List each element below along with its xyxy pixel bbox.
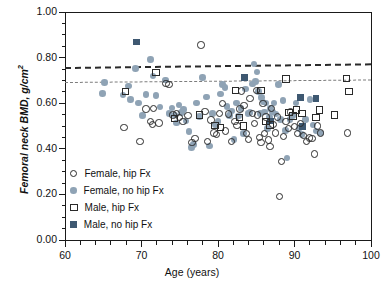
x-axis-title: Age (years) [0,266,384,278]
y-major-tick [59,57,65,58]
point-open-square [152,69,159,76]
y-minor-tick [62,228,66,229]
point-filled-circle [101,79,108,86]
legend-item-male_fx[interactable]: Male, hip Fx [70,202,139,213]
plot-top-edge [65,12,372,13]
chart-figure: Femoral neck BMD, g/cm2 0.000.200.400.60… [0,0,384,285]
point-filled-square [133,39,140,46]
point-open-square [298,110,305,117]
point-open-circle [213,131,220,138]
point-filled-circle [147,56,154,63]
point-open-square [171,115,178,122]
x-major-tick [65,241,66,247]
point-open-circle [150,105,157,112]
point-open-square [312,114,319,121]
point-open-circle [240,102,247,109]
point-open-circle [276,193,283,200]
point-filled-circle [199,74,206,81]
point-open-square [331,111,338,118]
x-minor-tick [279,241,280,245]
x-minor-tick [355,241,356,245]
x-minor-tick [263,241,264,245]
y-tick-label: 0.20 [21,187,57,199]
point-filled-circle [135,100,142,107]
point-open-circle [259,100,266,107]
point-open-circle [278,158,285,165]
point-open-circle [204,138,211,145]
x-minor-tick [340,241,341,245]
point-filled-circle [280,97,287,104]
legend-item-female_fx[interactable]: Female, hip Fx [70,168,151,179]
point-filled-circle [252,78,259,85]
y-minor-tick [62,137,66,138]
legend-label: Female, no hip Fx [84,185,164,196]
y-minor-tick [62,205,66,206]
y-minor-tick [62,34,66,35]
legend-label: Male, no hip Fx [84,219,152,230]
point-open-square [122,88,129,95]
point-open-circle [308,135,315,142]
legend-label: Male, hip Fx [85,202,139,213]
point-filled-circle [203,94,210,101]
point-open-circle [216,110,223,117]
point-open-circle [274,113,281,120]
point-open-circle [317,129,324,136]
point-filled-circle [275,81,282,88]
legend-item-male_no_fx[interactable]: Male, no hip Fx [70,219,152,230]
x-minor-tick [126,241,127,245]
x-tick-label: 90 [275,249,315,261]
y-axis-line [65,12,66,241]
point-open-circle [272,129,279,136]
y-axis-title-superscript: 2 [16,65,25,69]
y-minor-tick [62,217,66,218]
x-minor-tick [95,241,96,245]
point-open-square [266,121,273,128]
point-open-circle [257,139,264,146]
point-filled-circle [153,92,160,99]
point-open-square [282,75,289,82]
point-open-square [232,87,239,94]
y-axis-title: Femoral neck BMD, g/cm2 [16,65,30,194]
point-open-circle [165,81,172,88]
point-open-circle [179,118,186,125]
point-open-circle [225,110,232,117]
x-tick-label: 70 [122,249,162,261]
point-filled-circle [217,91,224,98]
y-major-tick [59,148,65,149]
x-major-tick [371,241,372,247]
y-minor-tick [62,91,66,92]
y-major-tick [59,194,65,195]
y-minor-tick [62,80,66,81]
y-tick-label: 0.80 [21,51,57,63]
point-open-circle [344,129,351,136]
point-filled-circle [254,69,261,76]
point-open-circle [197,41,204,48]
point-filled-circle [157,104,164,111]
point-filled-circle [186,128,193,135]
y-tick-label: 0.60 [21,96,57,108]
x-tick-label: 60 [45,249,85,261]
point-filled-circle [222,84,229,91]
point-open-square [257,87,264,94]
point-open-square [217,124,224,131]
point-open-square [316,106,323,113]
legend-open-square-icon [70,204,78,212]
x-tick-label: 100 [351,249,384,261]
y-tick-label: 0.00 [21,233,57,245]
point-open-square [343,75,350,82]
point-open-square [240,122,247,129]
point-open-circle [280,133,287,140]
y-minor-tick [62,23,66,24]
legend-item-female_no_fx[interactable]: Female, no hip Fx [70,185,164,196]
point-open-circle [136,138,143,145]
point-open-circle [311,150,318,157]
point-filled-square [241,74,248,81]
point-filled-circle [143,91,150,98]
y-tick-label: 1.00 [21,5,57,17]
y-minor-tick [62,183,66,184]
x-minor-tick [110,241,111,245]
point-open-circle [266,143,273,150]
x-minor-tick [309,241,310,245]
x-minor-tick [325,241,326,245]
thick-dashed-line [65,64,371,70]
